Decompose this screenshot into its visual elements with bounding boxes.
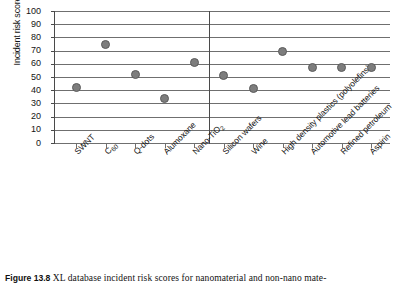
y-tick-mark bbox=[51, 117, 55, 118]
data-point bbox=[308, 63, 317, 72]
y-tick-label: 30 bbox=[15, 99, 41, 108]
gridline bbox=[55, 51, 390, 52]
y-tick-label: 70 bbox=[15, 46, 41, 55]
data-point bbox=[367, 63, 376, 72]
gridline bbox=[55, 24, 390, 25]
y-tick-mark bbox=[51, 11, 55, 12]
gridline bbox=[55, 11, 390, 12]
y-tick-label: 90 bbox=[15, 20, 41, 29]
y-tick-label: 20 bbox=[15, 112, 41, 121]
data-point bbox=[160, 94, 169, 103]
y-tick-label: 40 bbox=[15, 86, 41, 95]
y-tick-mark bbox=[51, 51, 55, 52]
figure-13-8: Incident risk score 01020304050607080901… bbox=[0, 0, 403, 294]
figure-caption-text: XL database incident risk scores for nan… bbox=[53, 273, 327, 283]
y-tick-label: 60 bbox=[15, 59, 41, 68]
x-axis-label: Aspirin bbox=[368, 132, 392, 156]
nano-nonnano-divider bbox=[209, 11, 210, 144]
data-point bbox=[190, 58, 199, 67]
y-tick-label: 100 bbox=[15, 7, 41, 16]
y-tick-mark bbox=[51, 143, 55, 144]
data-point bbox=[278, 47, 287, 56]
gridline bbox=[55, 37, 390, 38]
scatter-plot: 0102030405060708090100SWNTC60Q-dotsAlumo… bbox=[55, 11, 390, 143]
y-tick-label: 50 bbox=[15, 73, 41, 82]
y-tick-label: 80 bbox=[15, 33, 41, 42]
y-tick-mark bbox=[51, 64, 55, 65]
y-tick-mark bbox=[51, 90, 55, 91]
data-point bbox=[337, 63, 346, 72]
data-point bbox=[72, 83, 81, 92]
y-tick-mark bbox=[51, 103, 55, 104]
y-tick-label: 10 bbox=[15, 125, 41, 134]
y-tick-mark bbox=[51, 130, 55, 131]
chart-plot-region: Incident risk score 01020304050607080901… bbox=[0, 0, 403, 250]
gridline bbox=[55, 103, 390, 104]
x-axis-label: Q-dots bbox=[132, 132, 156, 156]
y-tick-mark bbox=[51, 24, 55, 25]
data-point bbox=[219, 71, 228, 80]
figure-number: Figure 13.8 bbox=[5, 273, 50, 283]
x-axis-label: Wine bbox=[250, 137, 270, 157]
figure-caption: Figure 13.8 XL database incident risk sc… bbox=[5, 272, 401, 284]
y-tick-mark bbox=[51, 77, 55, 78]
y-tick-label: 0 bbox=[15, 139, 41, 148]
y-tick-mark bbox=[51, 37, 55, 38]
data-point bbox=[249, 84, 258, 93]
data-point bbox=[131, 70, 140, 79]
data-point bbox=[101, 40, 110, 49]
x-axis-label: SWNT bbox=[73, 133, 97, 157]
